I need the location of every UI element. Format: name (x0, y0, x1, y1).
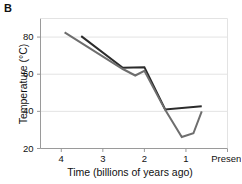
x-tick-label: 1 (178, 154, 194, 164)
axis-lines (41, 19, 228, 149)
y-tick-label: 20 (12, 144, 34, 154)
x-tick-label: Present (205, 154, 242, 164)
x-tick-label: 2 (136, 154, 152, 164)
x-tick-label: 3 (95, 154, 111, 164)
y-tick-label: 40 (12, 106, 34, 116)
y-tick-label: 60 (12, 69, 34, 79)
plot-frame (41, 19, 228, 149)
chart-figure: B Temperature (°C) Time (billions of yea… (0, 0, 241, 184)
x-tick-label: 4 (53, 154, 69, 164)
y-tick-label: 80 (12, 32, 34, 42)
data-series (65, 32, 202, 137)
frame-top-right (41, 19, 228, 149)
axis-ticks (37, 37, 228, 152)
series-lower-estimate-line (65, 32, 202, 137)
grid-lines (41, 37, 228, 148)
